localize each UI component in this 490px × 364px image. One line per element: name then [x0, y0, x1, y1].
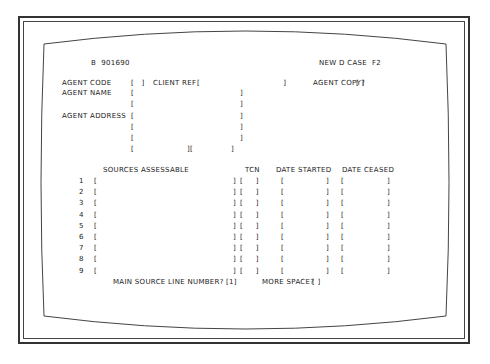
more-space-label: MORE SPACE? — [262, 278, 314, 286]
row-number: 8 — [79, 255, 84, 263]
tcn-field[interactable]: [ ] — [240, 211, 259, 219]
tcn-field[interactable]: [ ] — [240, 199, 259, 207]
date-started-end: ] — [326, 267, 329, 275]
main-source-label: MAIN SOURCE LINE NUMBER? — [113, 278, 224, 286]
client-ref-label: CLIENT REF — [153, 79, 196, 87]
date-started-end: ] — [326, 233, 329, 241]
date-started-field[interactable]: [ — [281, 222, 284, 230]
tcn-field[interactable]: [ ] — [240, 244, 259, 252]
date-ceased-field[interactable]: [ — [341, 255, 344, 263]
date-started-end: ] — [326, 244, 329, 252]
source-field-end: ] — [233, 188, 236, 196]
source-field-end: ] — [233, 255, 236, 263]
date-ceased-field[interactable]: [ — [341, 222, 344, 230]
tcn-field[interactable]: [ ] — [240, 188, 259, 196]
date-started-end: ] — [326, 199, 329, 207]
source-field[interactable]: [ — [94, 188, 97, 196]
date-started-end: ] — [326, 211, 329, 219]
agent-code-label: AGENT CODE — [62, 79, 111, 87]
date-started-field[interactable]: [ — [281, 267, 284, 275]
source-field-end: ] — [233, 267, 236, 275]
date-ceased-field[interactable]: [ — [341, 244, 344, 252]
date-ceased-end: ] — [387, 211, 390, 219]
row-number: 6 — [79, 233, 84, 241]
source-field-end: ] — [233, 211, 236, 219]
date-ceased-field[interactable]: [ — [341, 267, 344, 275]
source-field[interactable]: [ — [94, 177, 97, 185]
source-field[interactable]: [ — [94, 222, 97, 230]
agent-name-line-1[interactable]: [ ] — [131, 89, 243, 97]
date-ceased-end: ] — [387, 244, 390, 252]
agent-address-line-2[interactable]: [ ] — [131, 123, 243, 131]
agent-name-label: AGENT NAME — [62, 89, 112, 97]
date-started-field[interactable]: [ — [281, 244, 284, 252]
tcn-field[interactable]: [ ] — [240, 233, 259, 241]
agent-address-label: AGENT ADDRESS — [62, 112, 126, 120]
date-ceased-field[interactable]: [ — [341, 199, 344, 207]
more-space-field[interactable]: [ ] — [312, 278, 321, 286]
tcn-field[interactable]: [ ] — [240, 222, 259, 230]
row-number: 1 — [79, 177, 84, 185]
row-number: 4 — [79, 211, 84, 219]
row-number: 2 — [79, 188, 84, 196]
date-ceased-end: ] — [387, 267, 390, 275]
date-started-end: ] — [326, 222, 329, 230]
source-field[interactable]: [ — [94, 267, 97, 275]
date-ceased-field[interactable]: [ — [341, 211, 344, 219]
date-ceased-field[interactable]: [ — [341, 177, 344, 185]
date-started-field[interactable]: [ — [281, 211, 284, 219]
agent-address-line-1[interactable]: [ ] — [131, 112, 243, 120]
sources-header: SOURCES ASSESSABLE — [103, 166, 189, 174]
tcn-header: TCN — [245, 166, 260, 174]
date-started-field[interactable]: [ — [281, 255, 284, 263]
source-field[interactable]: [ — [94, 255, 97, 263]
date-ceased-end: ] — [387, 222, 390, 230]
row-number: 7 — [79, 244, 84, 252]
date-ceased-field[interactable]: [ — [341, 188, 344, 196]
date-ceased-header: DATE CEASED — [342, 166, 394, 174]
tcn-field[interactable]: [ ] — [240, 267, 259, 275]
date-ceased-end: ] — [387, 233, 390, 241]
date-started-end: ] — [326, 177, 329, 185]
date-started-field[interactable]: [ — [281, 233, 284, 241]
date-ceased-end: ] — [387, 255, 390, 263]
source-field[interactable]: [ — [94, 199, 97, 207]
agent-copy-field[interactable]: [ ] — [356, 79, 365, 87]
date-ceased-end: ] — [387, 199, 390, 207]
date-started-field[interactable]: [ — [281, 199, 284, 207]
screen-mode: NEW D CASE F2 — [319, 59, 381, 67]
agent-address-line-3[interactable]: [ ] — [131, 134, 243, 142]
main-source-value: 1 — [229, 278, 234, 286]
date-ceased-end: ] — [387, 188, 390, 196]
row-number: 9 — [79, 267, 84, 275]
source-field-end: ] — [233, 199, 236, 207]
date-started-field[interactable]: [ — [281, 188, 284, 196]
source-field-end: ] — [233, 244, 236, 252]
date-started-end: ] — [326, 188, 329, 196]
source-field[interactable]: [ — [94, 211, 97, 219]
source-field[interactable]: [ — [94, 233, 97, 241]
row-number: 3 — [79, 199, 84, 207]
date-started-field[interactable]: [ — [281, 177, 284, 185]
row-number: 5 — [79, 222, 84, 230]
date-started-header: DATE STARTED — [276, 166, 331, 174]
date-started-end: ] — [326, 255, 329, 263]
date-ceased-field[interactable]: [ — [341, 233, 344, 241]
agent-name-line-2[interactable]: [ ] — [131, 100, 243, 108]
tcn-field[interactable]: [ ] — [240, 255, 259, 263]
client-ref-field[interactable]: [ ] — [197, 79, 286, 87]
agent-code-field[interactable]: [ ] — [131, 79, 145, 87]
tcn-field[interactable]: [ ] — [240, 177, 259, 185]
source-field-end: ] — [233, 233, 236, 241]
source-field-end: ] — [233, 222, 236, 230]
date-ceased-end: ] — [387, 177, 390, 185]
source-field-end: ] — [233, 177, 236, 185]
agent-address-line-4[interactable]: [ ][ ] — [131, 145, 234, 153]
main-source-field[interactable]: [1] — [226, 278, 237, 286]
source-field[interactable]: [ — [94, 244, 97, 252]
record-id: B 901690 — [91, 59, 130, 67]
